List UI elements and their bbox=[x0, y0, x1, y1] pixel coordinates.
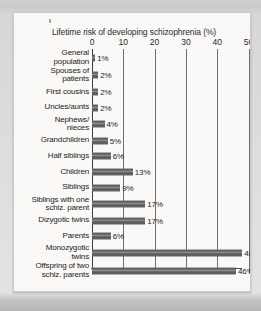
bar-track: 4% bbox=[92, 121, 118, 128]
category-label-line: Parents bbox=[13, 232, 89, 241]
bar-value-label: 1% bbox=[97, 53, 108, 62]
bar-value-label: 2% bbox=[100, 103, 111, 112]
category-label: First cousins bbox=[13, 88, 89, 97]
bar-track: 13% bbox=[92, 168, 150, 175]
bar bbox=[92, 104, 98, 111]
bar-value-label: 46% bbox=[238, 266, 251, 275]
bar-row: First cousins2% bbox=[14, 84, 250, 100]
bar-value-label: 2% bbox=[100, 71, 111, 80]
category-label: Parents bbox=[13, 232, 89, 241]
category-label: Siblings bbox=[13, 183, 89, 192]
bar bbox=[92, 54, 95, 61]
bar-value-label: 17% bbox=[147, 200, 163, 209]
category-label: Grandchildren bbox=[13, 136, 89, 145]
category-label: Generalpopulation bbox=[13, 49, 89, 66]
bar-row: Half siblings6% bbox=[14, 149, 250, 165]
scan-speck-artifact bbox=[49, 19, 51, 23]
category-label-line: Dizygotic twins bbox=[13, 216, 89, 225]
bar-row: Siblings9% bbox=[14, 180, 250, 196]
category-label: Children bbox=[13, 168, 89, 177]
bar-value-label: 2% bbox=[100, 87, 111, 96]
bar-row: Children13% bbox=[14, 164, 250, 180]
category-label-line: schiz. parent bbox=[13, 204, 89, 213]
category-label-line: Uncles/aunts bbox=[13, 103, 89, 112]
bar-track: 46% bbox=[92, 267, 251, 274]
bar-track: 17% bbox=[92, 201, 163, 208]
bar bbox=[92, 137, 108, 144]
bar-track: 48% bbox=[92, 249, 251, 256]
bar bbox=[92, 168, 133, 175]
bar-row: Dizygotic twins17% bbox=[14, 213, 250, 229]
bar-value-label: 17% bbox=[147, 216, 163, 225]
category-label-line: nieces bbox=[13, 124, 89, 133]
bar-value-label: 48% bbox=[244, 248, 251, 257]
category-label: Half siblings bbox=[13, 152, 89, 161]
bar-value-label: 6% bbox=[113, 232, 124, 241]
bar bbox=[92, 121, 105, 128]
bar-track: 2% bbox=[92, 104, 112, 111]
bar bbox=[92, 88, 98, 95]
category-label-line: Grandchildren bbox=[13, 136, 89, 145]
bar-row: Uncles/aunts2% bbox=[14, 100, 250, 116]
chart-title: Lifetime risk of developing schizophreni… bbox=[22, 27, 246, 37]
plot-area: Generalpopulation1%Spouses ofpatients2%F… bbox=[14, 49, 250, 291]
bar bbox=[92, 72, 98, 79]
bar-value-label: 6% bbox=[113, 152, 124, 161]
bar-row: Spouses ofpatients2% bbox=[14, 67, 250, 85]
category-label-line: Children bbox=[13, 168, 89, 177]
bar bbox=[92, 184, 120, 191]
bar bbox=[92, 217, 145, 224]
bar-track: 9% bbox=[92, 184, 134, 191]
bar-track: 17% bbox=[92, 217, 163, 224]
bar-value-label: 13% bbox=[135, 167, 151, 176]
category-label-line: Siblings bbox=[13, 183, 89, 192]
x-axis-tick-labels: 01020304050 bbox=[14, 37, 250, 49]
bar-track: 6% bbox=[92, 153, 124, 160]
category-label: Nephews/nieces bbox=[13, 116, 89, 133]
bar bbox=[92, 249, 242, 256]
bar-row: Grandchildren5% bbox=[14, 133, 250, 149]
category-label: Offspring of twoschiz. parents bbox=[13, 262, 89, 279]
category-label-line: patients bbox=[13, 75, 89, 84]
bar bbox=[92, 201, 145, 208]
category-label: Uncles/aunts bbox=[13, 103, 89, 112]
bar-value-label: 5% bbox=[110, 136, 121, 145]
x-tick-label-30: 30 bbox=[181, 37, 190, 47]
bar-row: Nephews/nieces4% bbox=[14, 115, 250, 133]
category-label-line: Half siblings bbox=[13, 152, 89, 161]
bar-value-label: 9% bbox=[122, 183, 133, 192]
x-tick-label-0: 0 bbox=[90, 37, 95, 47]
x-tick-label-50: 50 bbox=[244, 37, 251, 47]
bar-track: 6% bbox=[92, 233, 124, 240]
bar-row: Monozygotictwins48% bbox=[14, 244, 250, 262]
bar-row: Offspring of twoschiz. parents46% bbox=[14, 262, 250, 280]
category-label: Spouses ofpatients bbox=[13, 67, 89, 84]
category-label: Siblings with oneschiz. parent bbox=[13, 196, 89, 213]
bar-rows: Generalpopulation1%Spouses ofpatients2%F… bbox=[14, 49, 250, 279]
bar-track: 1% bbox=[92, 54, 109, 61]
x-tick-label-40: 40 bbox=[212, 37, 221, 47]
bar bbox=[92, 267, 236, 274]
x-tick-label-10: 10 bbox=[119, 37, 128, 47]
bar-track: 5% bbox=[92, 137, 121, 144]
bar-row: Generalpopulation1% bbox=[14, 49, 250, 67]
category-label: Monozygotictwins bbox=[13, 244, 89, 261]
category-label: Dizygotic twins bbox=[13, 216, 89, 225]
category-label-line: schiz. parents bbox=[13, 271, 89, 280]
bar-row: Siblings with oneschiz. parent17% bbox=[14, 195, 250, 213]
bar bbox=[92, 233, 111, 240]
chart-card: Lifetime risk of developing schizophreni… bbox=[13, 12, 251, 292]
bar-track: 2% bbox=[92, 88, 112, 95]
category-label-line: First cousins bbox=[13, 88, 89, 97]
x-tick-label-20: 20 bbox=[150, 37, 159, 47]
bar-row: Parents6% bbox=[14, 229, 250, 245]
bar bbox=[92, 153, 111, 160]
bar-value-label: 4% bbox=[107, 120, 118, 129]
bar-track: 2% bbox=[92, 72, 112, 79]
